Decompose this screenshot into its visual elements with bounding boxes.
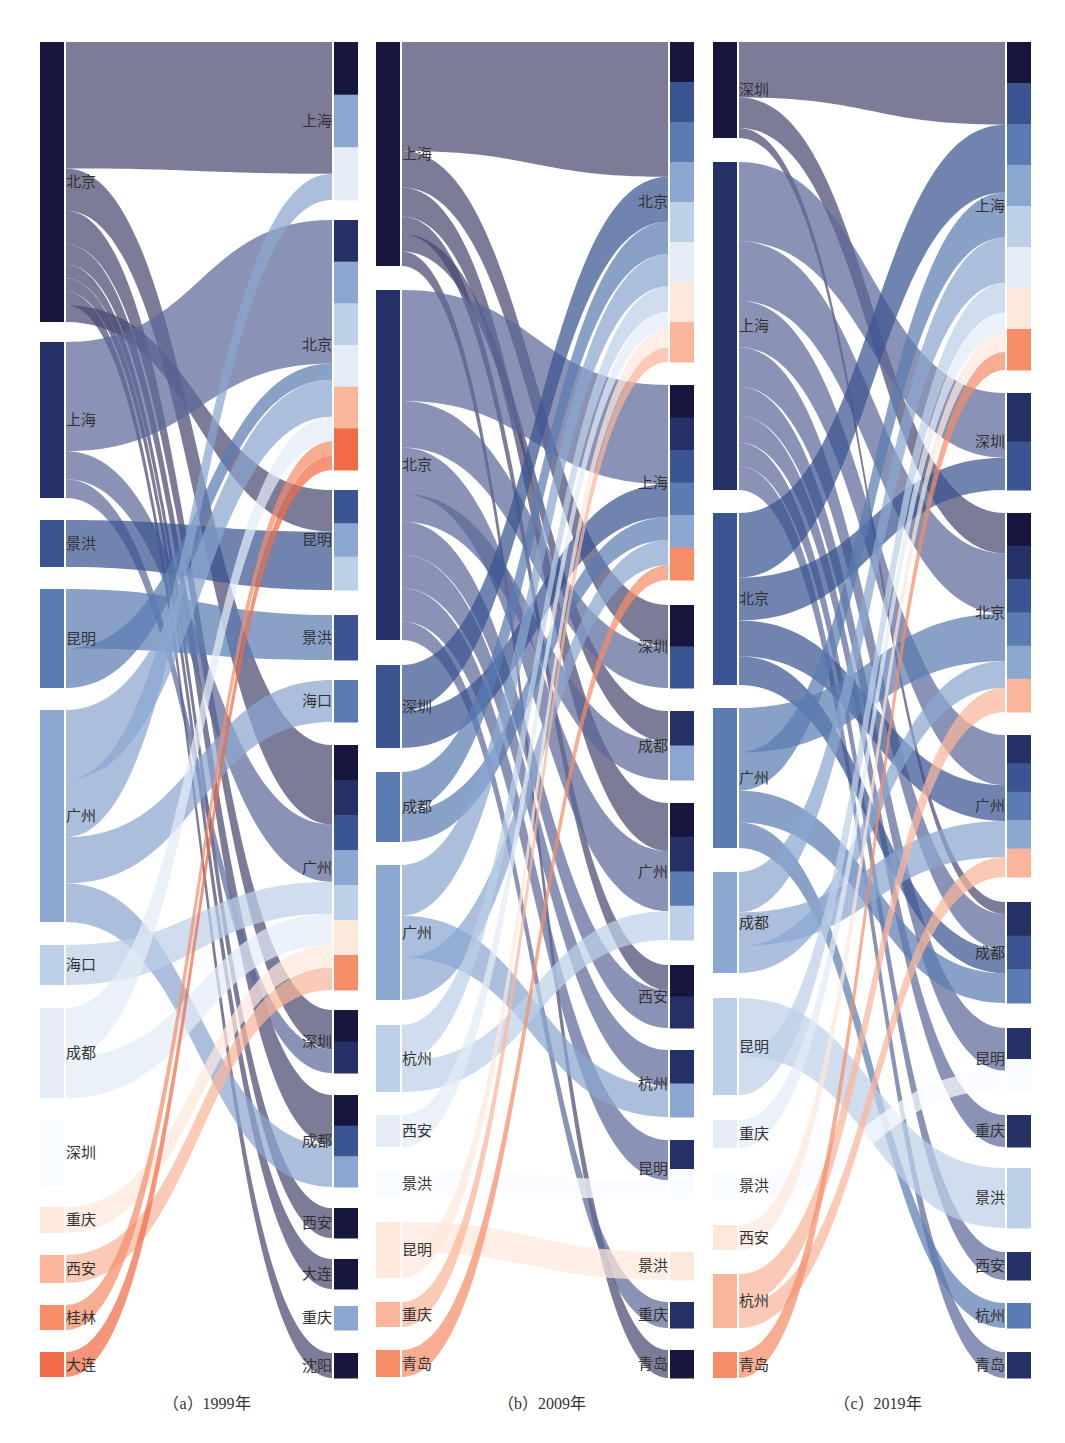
right-node-segment	[1007, 1252, 1031, 1281]
right-node-label: 青岛	[975, 1356, 1005, 1374]
right-node-label: 重庆	[975, 1122, 1005, 1140]
left-node-bar	[713, 708, 737, 848]
left-node-bar	[713, 42, 737, 138]
caption-2009: （b）2009年	[392, 1390, 692, 1414]
right-node-segment	[1007, 206, 1031, 248]
right-node-segment	[1007, 579, 1031, 613]
caption-2019: （c）2019年	[728, 1390, 1028, 1414]
right-node-label: 西安	[975, 1257, 1005, 1275]
right-node-segment	[1007, 792, 1031, 821]
right-node-segment	[1007, 329, 1031, 371]
left-node-label: 杭州	[739, 1292, 769, 1310]
right-node-segment	[1007, 936, 1031, 970]
right-node-segment	[1007, 1303, 1031, 1329]
right-node-segment	[1007, 1028, 1031, 1060]
left-node-bar	[713, 872, 737, 973]
right-node-segment	[1007, 849, 1031, 878]
left-node-label: 重庆	[739, 1125, 769, 1143]
right-node-segment	[1007, 442, 1031, 491]
left-node-label: 景洪	[739, 1177, 769, 1195]
right-node-label: 杭州	[975, 1307, 1005, 1325]
right-node-segment	[1007, 679, 1031, 713]
right-node-segment	[1007, 165, 1031, 207]
sankey-svg: 深圳上海北京广州成都昆明重庆景洪西安杭州青岛上海深圳北京广州成都昆明重庆景洪西安…	[0, 0, 1065, 1443]
right-node-segment	[1007, 124, 1031, 166]
right-node-segment	[1007, 969, 1031, 1003]
right-node-label: 深圳	[975, 433, 1005, 451]
left-node-bar	[713, 513, 737, 685]
left-node-bar	[713, 1225, 737, 1250]
right-node-segment	[1007, 902, 1031, 936]
left-node-label: 广州	[739, 769, 769, 787]
right-node-segment	[1007, 83, 1031, 125]
left-node-label: 西安	[739, 1229, 769, 1247]
right-node-label: 景洪	[975, 1189, 1005, 1207]
left-node-label: 昆明	[739, 1038, 769, 1056]
right-node-label: 成都	[975, 944, 1005, 962]
right-node-segment	[1007, 613, 1031, 647]
right-node-segment	[1007, 763, 1031, 792]
left-node-bar	[713, 998, 737, 1095]
right-node-segment	[1007, 42, 1031, 84]
right-node-segment	[1007, 646, 1031, 680]
right-node-segment	[1007, 1352, 1031, 1379]
left-node-bar	[713, 162, 737, 490]
right-node-segment	[1007, 393, 1031, 442]
left-node-bar	[713, 1172, 737, 1200]
right-node-segment	[1007, 1168, 1031, 1229]
right-node-segment	[1007, 247, 1031, 289]
flow-links	[739, 42, 1005, 1378]
left-node-bar	[713, 1274, 737, 1328]
left-node-label: 成都	[739, 914, 769, 932]
right-node-segment	[1007, 513, 1031, 547]
left-node-bar	[713, 1120, 737, 1148]
right-node-label: 上海	[975, 197, 1005, 215]
right-node-segment	[1007, 820, 1031, 849]
right-node-segment	[1007, 546, 1031, 580]
left-node-label: 深圳	[739, 81, 769, 99]
left-node-bar	[713, 1352, 737, 1378]
right-node-segment	[1007, 735, 1031, 764]
right-node-segment	[1007, 1115, 1031, 1148]
caption-1999: （a）1999年	[57, 1390, 357, 1414]
right-node-label: 北京	[975, 604, 1005, 622]
right-node-segment	[1007, 1059, 1031, 1091]
right-node-label: 昆明	[975, 1050, 1005, 1068]
left-node-label: 上海	[739, 317, 769, 335]
left-node-label: 北京	[739, 590, 769, 608]
right-node-label: 广州	[975, 797, 1005, 815]
right-node-segment	[1007, 288, 1031, 330]
sankey-panel-2019: 深圳上海北京广州成都昆明重庆景洪西安杭州青岛上海深圳北京广州成都昆明重庆景洪西安…	[0, 0, 1065, 1443]
left-node-label: 青岛	[739, 1356, 769, 1374]
